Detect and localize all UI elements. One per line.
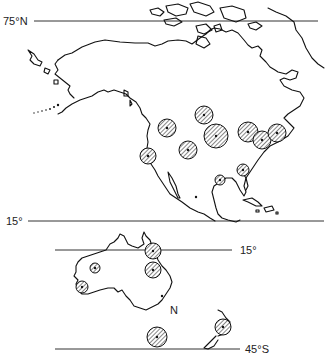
latitude-label-15s: 15°: [240, 245, 257, 256]
north-marker-label: N: [170, 305, 178, 316]
site-marker: [195, 106, 213, 124]
site-marker: [76, 281, 88, 293]
site-marker: [215, 175, 225, 185]
site-marker: [179, 141, 197, 159]
aleutian-islands: [33, 104, 59, 114]
site-marker: [140, 148, 156, 164]
sites-australasia: [76, 243, 231, 347]
sites-north-america: [140, 106, 286, 185]
site-marker: [158, 119, 176, 137]
site-marker: [90, 263, 100, 273]
distribution-map: 75°N 15° 15° 45°S N: [0, 0, 331, 357]
latitude-label-15n: 15°: [6, 216, 23, 227]
site-marker: [215, 319, 231, 335]
site-marker: [268, 124, 286, 142]
site-marker: [145, 243, 161, 259]
latitude-label-75n: 75°N: [3, 16, 28, 27]
site-marker: [145, 262, 161, 278]
site-marker: [204, 124, 228, 148]
site-marker: [147, 327, 167, 347]
north-america-outline: [28, 2, 324, 222]
site-marker: [237, 164, 249, 176]
latitude-label-45s: 45°S: [245, 344, 269, 355]
